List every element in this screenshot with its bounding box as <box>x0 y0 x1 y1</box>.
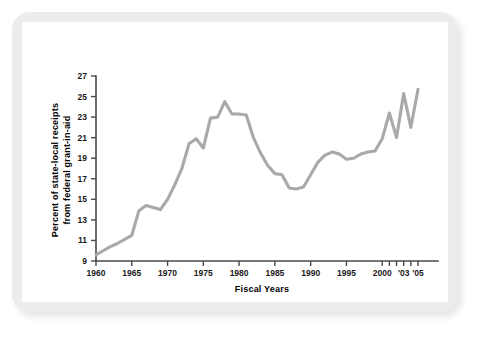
y-tick-label: 17 <box>78 174 88 184</box>
y-tick-label: 19 <box>78 153 88 163</box>
y-tick-label: 21 <box>78 133 88 143</box>
x-tick-label: 2000 <box>373 268 392 278</box>
x-tick-label: 1985 <box>265 268 284 278</box>
x-tick-label: 1990 <box>301 268 320 278</box>
y-axis-title-line1: Percent of state-local receipts <box>50 103 60 237</box>
y-tick-label: 25 <box>78 92 88 102</box>
x-tick-label: 1975 <box>194 268 213 278</box>
x-tick-label: '03 <box>398 268 410 278</box>
x-tick-label: 1995 <box>337 268 356 278</box>
y-axis-tick-labels: 2725232119171513119 <box>78 71 88 266</box>
x-tick-label: 1965 <box>122 268 141 278</box>
line-chart: 2725232119171513119 19601965197019751980… <box>0 0 486 340</box>
y-tick-label: 27 <box>78 71 88 81</box>
y-tick-label: 11 <box>78 235 87 245</box>
y-tick-label: 13 <box>78 215 88 225</box>
figure-page: 2725232119171513119 19601965197019751980… <box>0 0 486 340</box>
y-tick-label: 23 <box>78 112 88 122</box>
x-tick-label: 1980 <box>230 268 249 278</box>
chart-svg: 2725232119171513119 19601965197019751980… <box>0 0 486 340</box>
x-axis-title: Fiscal Years <box>235 284 289 294</box>
y-tick-label: 9 <box>82 256 87 266</box>
y-axis-title-line2: from federal grant-in-aid <box>62 115 72 224</box>
x-tick-label: '05 <box>412 268 424 278</box>
x-tick-label: 1960 <box>87 268 106 278</box>
data-series-line <box>96 89 418 254</box>
y-tick-label: 15 <box>78 194 88 204</box>
x-axis-tick-labels: 196019651970197519801985199019952000'03'… <box>87 268 424 278</box>
x-tick-label: 1970 <box>158 268 177 278</box>
